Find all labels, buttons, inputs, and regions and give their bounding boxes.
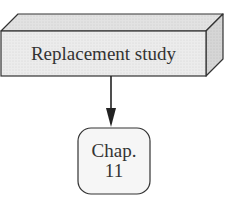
chapter-reference: Chap. 11 <box>78 128 150 194</box>
arrow-head-icon <box>106 108 116 127</box>
chapter-number: 11 <box>105 161 123 181</box>
box-top-face <box>1 14 223 31</box>
chapter-prefix: Chap. <box>92 141 137 161</box>
replacement-study-label: Replacement study <box>1 31 206 76</box>
